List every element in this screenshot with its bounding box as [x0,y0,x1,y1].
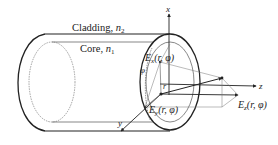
cladding-label: Cladding, n2 [72,22,125,35]
axis-x-label: x [165,4,170,14]
axis-y-label: y [117,118,122,128]
fiber-diagram: Cladding, n2 Core, n1 x z y r φ Ex(r, φ)… [0,0,278,145]
axis-z-label: z [258,81,263,91]
core-label: Core, n1 [80,43,115,56]
end-face [140,34,200,130]
phi-label: φ [140,65,145,75]
ez-label: Ez(r, φ) [237,99,267,112]
